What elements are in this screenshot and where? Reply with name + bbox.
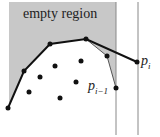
point-p-i xyxy=(135,60,140,65)
p-i-label: pi xyxy=(141,53,151,71)
p-im1-sub: i−1 xyxy=(95,86,108,96)
empty-region-label: empty region xyxy=(23,6,97,22)
p-i-minus-1-label: pi−1 xyxy=(88,78,108,96)
p-i-sub: i xyxy=(148,61,151,71)
interior-points xyxy=(27,59,84,101)
point-p-i-minus-1 xyxy=(114,86,119,91)
p-i-base: p xyxy=(141,53,148,68)
p-im1-base: p xyxy=(88,78,95,93)
diagram-canvas: empty region pi pi−1 xyxy=(0,0,160,137)
